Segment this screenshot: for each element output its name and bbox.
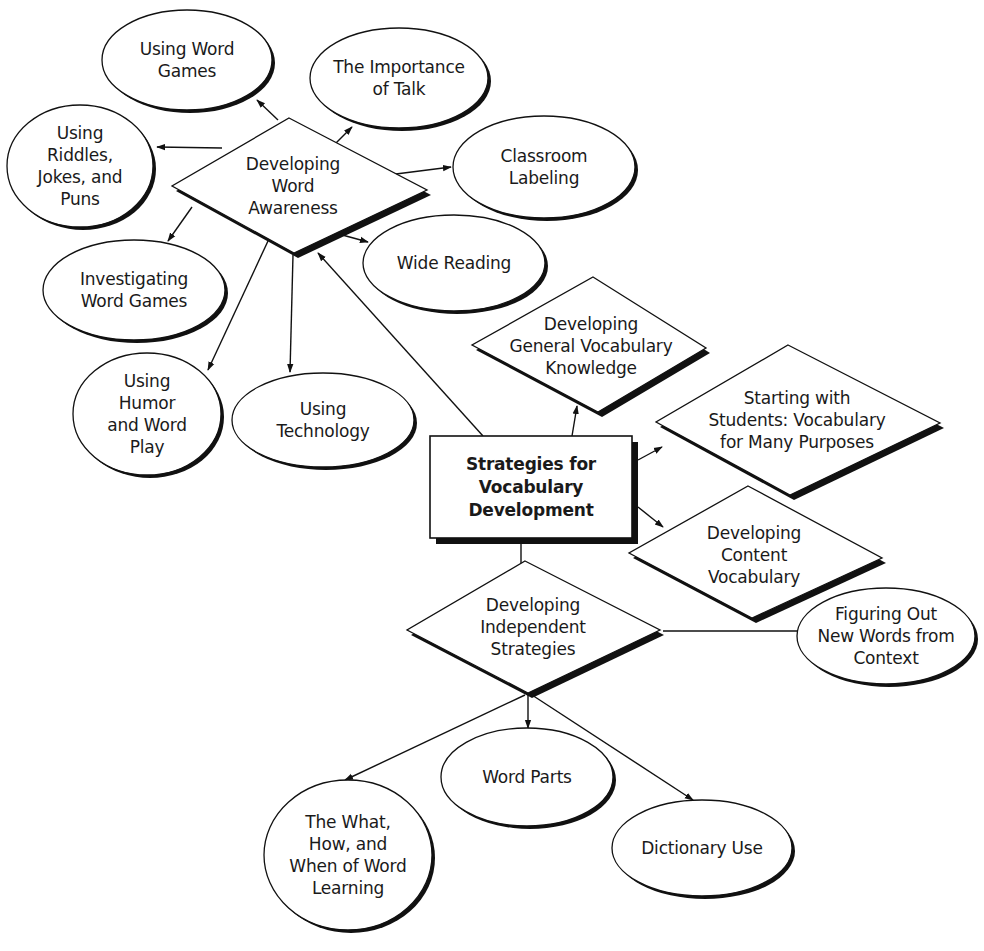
label-line: Technology xyxy=(276,420,369,442)
label-line: Wide Reading xyxy=(397,252,511,274)
content-vocabulary-label: DevelopingContentVocabulary xyxy=(707,522,801,588)
label-line: Jokes, and xyxy=(38,166,123,188)
figuring-out-new-words-label: Figuring OutNew Words fromContext xyxy=(817,603,954,669)
label-line: Riddles, xyxy=(47,144,113,166)
label-line: Independent xyxy=(480,616,586,638)
label-line: Vocabulary xyxy=(479,476,584,499)
label-line: Vocabulary xyxy=(708,566,800,588)
label-line: Dictionary Use xyxy=(641,837,763,859)
what-how-when-label: The What,How, andWhen of WordLearning xyxy=(289,811,406,899)
label-line: Word Parts xyxy=(482,766,572,788)
label-line: Development xyxy=(468,499,593,522)
central-topic-label: Strategies forVocabularyDevelopment xyxy=(466,453,596,522)
label-line: Learning xyxy=(312,877,384,899)
label-line: and Word xyxy=(107,414,186,436)
using-word-games-label: Using WordGames xyxy=(140,38,235,82)
label-line: Strategies xyxy=(491,638,576,660)
label-line: Content xyxy=(721,544,787,566)
label-line: Developing xyxy=(544,313,638,335)
importance-of-talk-label: The Importanceof Talk xyxy=(333,56,465,100)
classroom-labeling-label: ClassroomLabeling xyxy=(501,145,588,189)
label-line: Context xyxy=(853,647,918,669)
label-line: of Talk xyxy=(373,78,426,100)
label-line: Awareness xyxy=(248,197,337,219)
general-vocabulary-label: DevelopingGeneral VocabularyKnowledge xyxy=(509,313,672,379)
label-line: Investigating xyxy=(80,268,188,290)
label-line: Figuring Out xyxy=(835,603,937,625)
label-line: Developing xyxy=(707,522,801,544)
label-line: Using xyxy=(300,398,347,420)
label-line: The Importance xyxy=(333,56,465,78)
label-line: New Words from xyxy=(817,625,954,647)
label-line: for Many Purposes xyxy=(720,431,874,453)
label-line: Word xyxy=(272,175,315,197)
connector-central-to-content-vocabulary xyxy=(638,507,663,527)
riddles-jokes-puns-label: UsingRiddles,Jokes, andPuns xyxy=(38,122,123,210)
investigating-word-games-label: InvestigatingWord Games xyxy=(80,268,188,312)
connector-word-awareness-to-investigating-word-games xyxy=(168,207,192,241)
label-line: Games xyxy=(158,60,216,82)
label-line: Puns xyxy=(60,188,100,210)
label-line: Using xyxy=(124,370,171,392)
label-line: How, and xyxy=(309,833,387,855)
humor-word-play-label: UsingHumorand WordPlay xyxy=(107,370,186,458)
connector-word-awareness-to-riddles-jokes-puns xyxy=(157,147,222,148)
connector-word-awareness-to-using-word-games xyxy=(257,100,278,120)
concept-map: Using WordGamesThe Importanceof TalkUsin… xyxy=(0,0,984,951)
word-parts-label: Word Parts xyxy=(482,766,572,788)
label-line: Using Word xyxy=(140,38,235,60)
connector-central-to-general-vocabulary xyxy=(572,406,577,436)
label-line: Labeling xyxy=(509,167,580,189)
label-line: Developing xyxy=(246,153,340,175)
label-line: Classroom xyxy=(501,145,588,167)
dictionary-use-label: Dictionary Use xyxy=(641,837,763,859)
label-line: Knowledge xyxy=(545,357,637,379)
connector-word-awareness-to-using-technology xyxy=(290,255,293,372)
connector-central-to-starting-with-students xyxy=(638,447,662,460)
label-line: Play xyxy=(130,436,165,458)
label-line: Starting with xyxy=(744,387,851,409)
label-line: Strategies for xyxy=(466,453,596,476)
label-line: Word Games xyxy=(81,290,188,312)
starting-with-students-label: Starting withStudents: Vocabularyfor Man… xyxy=(708,387,885,453)
label-line: Humor xyxy=(119,392,176,414)
wide-reading-label: Wide Reading xyxy=(397,252,511,274)
label-line: General Vocabulary xyxy=(509,335,672,357)
independent-strategies-label: DevelopingIndependentStrategies xyxy=(480,594,586,660)
label-line: Students: Vocabulary xyxy=(708,409,885,431)
label-line: The What, xyxy=(305,811,390,833)
label-line: Using xyxy=(57,122,104,144)
word-awareness-label: DevelopingWordAwareness xyxy=(246,153,340,219)
using-technology-label: UsingTechnology xyxy=(276,398,369,442)
label-line: Developing xyxy=(486,594,580,616)
connector-word-awareness-to-classroom-labeling xyxy=(388,167,451,175)
label-line: When of Word xyxy=(289,855,406,877)
